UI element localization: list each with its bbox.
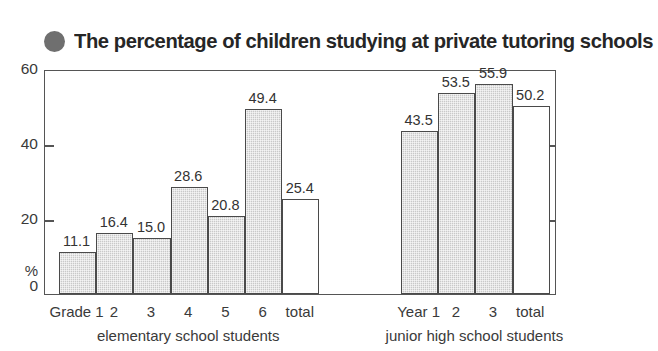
bar-value-label: 43.5 bbox=[404, 112, 432, 128]
bar-value-label: 53.5 bbox=[442, 74, 470, 90]
bar-value-label: 16.4 bbox=[100, 214, 128, 230]
bar-elementary-4 bbox=[208, 216, 245, 294]
bar-elementary-1 bbox=[96, 233, 133, 295]
bar-junior-0 bbox=[401, 131, 438, 294]
x-axis-category-label: Year 1 bbox=[397, 303, 440, 320]
bar-value-label: 28.6 bbox=[174, 168, 202, 184]
bar-elementary-6 bbox=[282, 199, 319, 294]
bar-value-label: 15.0 bbox=[137, 219, 165, 235]
bar-value-label: 55.9 bbox=[479, 65, 507, 81]
bar-elementary-5 bbox=[245, 109, 282, 294]
filled-circle-icon bbox=[44, 31, 65, 52]
y-axis-tick-left-20 bbox=[45, 220, 54, 222]
bar-junior-3 bbox=[513, 106, 550, 294]
x-axis-category-label: total bbox=[516, 303, 544, 320]
bar-junior-2 bbox=[475, 84, 512, 294]
x-axis-category-label: 5 bbox=[221, 303, 229, 320]
x-axis-category-label: 2 bbox=[110, 303, 118, 320]
bar-elementary-2 bbox=[133, 238, 170, 294]
x-axis-category-label: 6 bbox=[258, 303, 266, 320]
bar-elementary-0 bbox=[59, 252, 96, 294]
bar-value-label: 11.1 bbox=[63, 233, 90, 249]
x-axis-group-label: elementary school students bbox=[97, 327, 280, 344]
chart-title-row: The percentage of children studying at p… bbox=[44, 26, 658, 56]
x-axis-category-label: Grade 1 bbox=[49, 303, 103, 320]
y-axis-tick-label-60: 60 bbox=[10, 60, 38, 78]
y-axis-tick-label-0: 0 bbox=[10, 277, 38, 295]
x-axis-category-label: 4 bbox=[184, 303, 192, 320]
bar-junior-1 bbox=[438, 93, 475, 294]
x-axis-category-label: 2 bbox=[452, 303, 460, 320]
page-title: The percentage of children studying at p… bbox=[74, 29, 653, 53]
y-axis-tick-label-20: 20 bbox=[10, 210, 38, 228]
y-axis-tick-label-40: 40 bbox=[10, 135, 38, 153]
x-axis-category-label: 3 bbox=[489, 303, 497, 320]
bar-elementary-3 bbox=[171, 187, 208, 294]
bar-value-label: 25.4 bbox=[286, 180, 314, 196]
bar-value-label: 49.4 bbox=[248, 90, 276, 106]
bar-value-label: 20.8 bbox=[211, 197, 239, 213]
x-axis-category-label: total bbox=[286, 303, 314, 320]
y-axis-tick-left-40 bbox=[45, 145, 54, 147]
bar-value-label: 50.2 bbox=[516, 87, 544, 103]
x-axis-category-label: 3 bbox=[147, 303, 155, 320]
x-axis-group-label: junior high school students bbox=[386, 327, 564, 344]
